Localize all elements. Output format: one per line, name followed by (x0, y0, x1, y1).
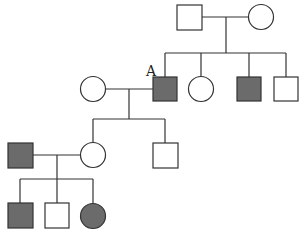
male-affected-II-2-A (153, 77, 177, 101)
male-unaffected-II-5 (274, 77, 298, 101)
male-unaffected-I-1 (177, 5, 202, 30)
pedigree-diagram: A (0, 0, 305, 239)
female-unaffected-II-1 (81, 77, 106, 102)
male-affected-III-1 (8, 143, 33, 168)
female-unaffected-I-2 (249, 5, 274, 30)
label-A: A (145, 63, 157, 79)
male-unaffected-III-3 (153, 143, 178, 168)
female-affected-IV-3 (81, 204, 106, 229)
female-unaffected-III-2 (81, 143, 106, 168)
female-unaffected-II-3 (189, 77, 214, 102)
male-affected-II-4 (237, 77, 261, 101)
male-affected-IV-1 (8, 203, 33, 228)
male-unaffected-IV-2 (45, 203, 69, 228)
